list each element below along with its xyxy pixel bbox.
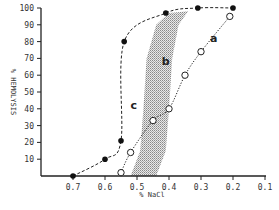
y-tick-label: 80 [24,38,34,47]
y-tick-label: 10 [24,155,34,164]
y-axis-title: % HEMOLYSIS [9,69,17,115]
y-tick-label: 50 [24,88,34,97]
x-axis-title: % NaCl [139,191,164,199]
open-point-marker [127,149,133,155]
filled-point-marker [70,173,76,179]
x-tick-label: 0.7 [66,183,81,192]
x-tick-label: 0.6 [98,183,113,192]
open-point-marker [198,48,204,54]
normal-range-band [131,11,189,176]
y-tick-label: 90 [24,21,34,30]
y-tick-label: 20 [24,138,34,147]
curve-label-a: a [210,32,217,45]
open-point-marker [150,117,156,123]
y-tick-label: 100 [20,4,35,13]
open-point-marker [227,13,233,19]
filled-point-marker [230,5,236,11]
y-tick-label: 60 [24,71,34,80]
curve-label-b: b [162,55,170,68]
shaded-band-b [131,11,189,176]
open-point-marker [166,106,172,112]
filled-point-marker [163,10,169,16]
open-point-marker [118,169,124,175]
y-tick-label: 40 [24,105,34,114]
y-tick-label: 70 [24,54,34,63]
x-tick-label: 0.2 [226,183,241,192]
filled-point-marker [121,39,127,45]
open-point-marker [182,72,188,78]
filled-point-marker [102,156,108,162]
hemolysis-chart: 1020304050607080901000.70.60.50.40.30.20… [0,0,279,210]
y-tick-label: 30 [24,122,34,131]
curve-label-c: c [131,99,138,112]
filled-point-marker [195,5,201,11]
x-tick-label: 0.3 [194,183,209,192]
filled-point-marker [118,138,124,144]
x-tick-label: 0.1 [258,183,273,192]
